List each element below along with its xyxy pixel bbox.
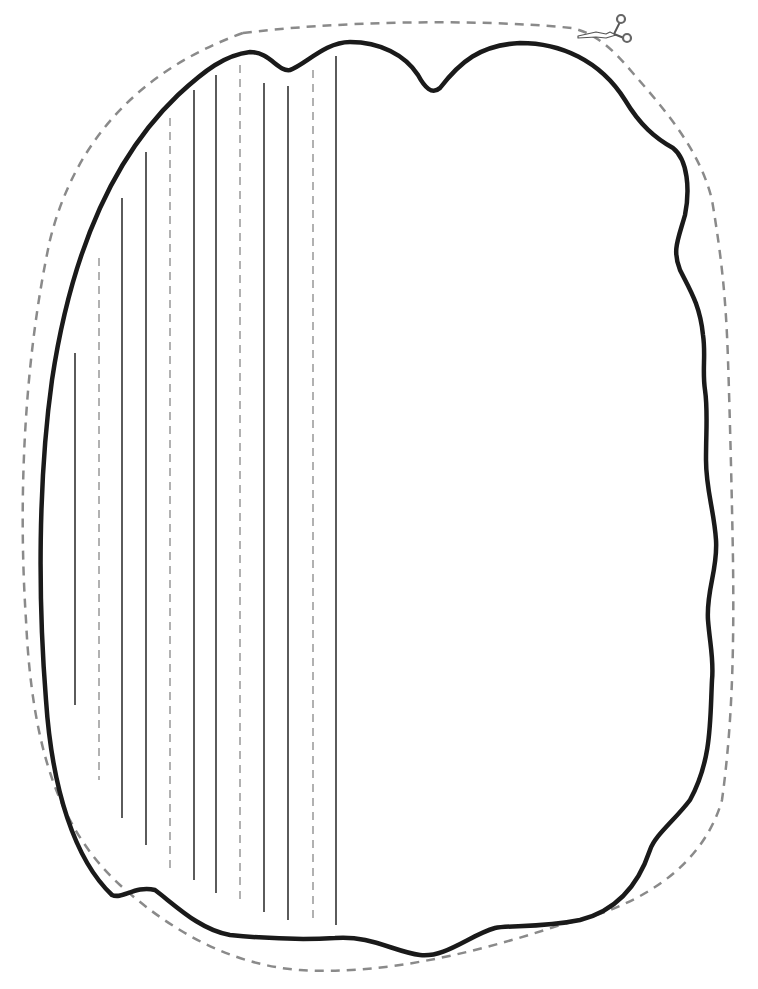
cut-line xyxy=(23,22,734,970)
template-canvas xyxy=(0,0,758,989)
handwriting-guide-lines xyxy=(75,56,336,925)
writing-template-sheet xyxy=(0,0,758,989)
scissors-icon xyxy=(578,15,631,42)
shape-outline xyxy=(41,42,717,955)
